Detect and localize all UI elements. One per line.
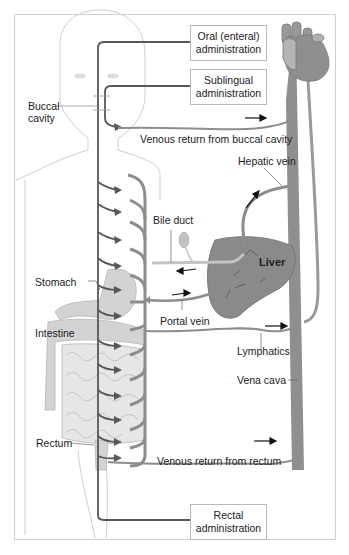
label-stomach: Stomach — [35, 276, 76, 288]
aorta — [304, 80, 318, 322]
heart — [282, 22, 329, 81]
sublingual-administration-box: Sublingual administration — [190, 69, 267, 105]
rectal-administration-box: Rectal administration — [190, 504, 267, 540]
oral-box-line1: Oral (enteral) — [191, 30, 266, 43]
label-venous-return-rectum: Venous return from rectum — [157, 455, 281, 467]
venous-return-buccal-vessel — [118, 120, 290, 129]
oral-administration-box: Oral (enteral) administration — [190, 25, 267, 61]
label-vena-cava: Vena cava — [237, 374, 286, 386]
rectal-box-line1: Rectal — [191, 509, 266, 522]
gallbladder — [179, 232, 189, 248]
human-body-outline — [16, 10, 160, 538]
rectal-box-line2: administration — [191, 522, 266, 535]
sublingual-box-line1: Sublingual — [191, 74, 266, 87]
label-portal-vein: Portal vein — [160, 315, 210, 327]
liver — [207, 237, 295, 319]
eye-left — [74, 74, 86, 79]
label-bile-duct: Bile duct — [153, 214, 193, 226]
label-lymphatics: Lymphatics — [237, 345, 290, 357]
oral-box-line2: administration — [191, 43, 266, 56]
label-liver: Liver — [259, 256, 285, 268]
label-buccal-line2: cavity — [28, 112, 60, 124]
eye-right — [107, 74, 119, 79]
buccal-marker — [55, 96, 110, 110]
label-rectum: Rectum — [36, 437, 72, 449]
label-venous-return-buccal: Venous return from buccal cavity — [140, 133, 292, 145]
label-hepatic-vein: Hepatic vein — [238, 155, 296, 167]
label-buccal-line1: Buccal — [28, 100, 60, 112]
sublingual-box-line2: administration — [191, 87, 266, 100]
label-intestine: Intestine — [35, 327, 75, 339]
label-buccal-cavity: Buccal cavity — [28, 100, 60, 124]
